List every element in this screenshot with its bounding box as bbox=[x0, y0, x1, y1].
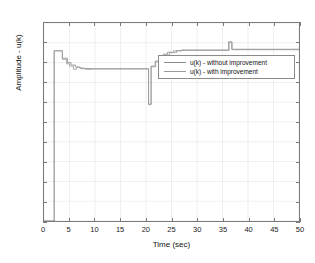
legend-label-series1: u(k) - without improvement bbox=[190, 59, 267, 66]
tick-mark bbox=[296, 162, 300, 163]
tick-mark bbox=[296, 202, 300, 203]
tick-mark bbox=[296, 142, 300, 143]
x-tick-label: 10 bbox=[90, 225, 98, 234]
tick-mark bbox=[197, 218, 198, 222]
x-axis-label: Time (sec) bbox=[43, 240, 300, 249]
x-tick-label: 5 bbox=[67, 225, 71, 234]
tick-mark bbox=[120, 22, 121, 26]
tick-mark bbox=[69, 22, 70, 26]
tick-mark bbox=[300, 218, 301, 222]
tick-mark bbox=[146, 218, 147, 222]
tick-mark bbox=[43, 102, 47, 103]
x-tick-label: 25 bbox=[167, 225, 175, 234]
tick-mark bbox=[120, 218, 121, 222]
chart-legend[interactable]: u(k) - without improvement u(k) - with i… bbox=[158, 55, 295, 79]
tick-mark bbox=[146, 22, 147, 26]
tick-mark bbox=[69, 218, 70, 222]
legend-line-swatch-series2 bbox=[164, 71, 186, 72]
tick-mark bbox=[249, 22, 250, 26]
tick-mark bbox=[296, 222, 300, 223]
tick-mark bbox=[94, 22, 95, 26]
tick-mark bbox=[43, 142, 47, 143]
tick-mark bbox=[43, 222, 47, 223]
x-tick-label: 15 bbox=[116, 225, 124, 234]
tick-mark bbox=[43, 162, 47, 163]
tick-mark bbox=[296, 102, 300, 103]
x-tick-label: 20 bbox=[142, 225, 150, 234]
tick-mark bbox=[296, 22, 300, 23]
tick-mark bbox=[296, 182, 300, 183]
x-tick-label: 35 bbox=[219, 225, 227, 234]
legend-label-series2: u(k) - with improvement bbox=[190, 68, 258, 75]
tick-mark bbox=[43, 122, 47, 123]
tick-mark bbox=[249, 218, 250, 222]
tick-mark bbox=[172, 22, 173, 26]
tick-mark bbox=[223, 22, 224, 26]
tick-mark bbox=[43, 22, 47, 23]
tick-mark bbox=[43, 202, 47, 203]
figure-canvas: 10.80.60.40.20-0.2-0.4-0.6-0.8-1 0510152… bbox=[0, 0, 315, 263]
plot-area bbox=[43, 22, 300, 222]
x-tick-label: 40 bbox=[244, 225, 252, 234]
legend-line-swatch-series1 bbox=[164, 62, 186, 63]
data-layer bbox=[44, 23, 299, 221]
x-tick-label: 50 bbox=[296, 225, 304, 234]
tick-mark bbox=[223, 218, 224, 222]
tick-mark bbox=[197, 22, 198, 26]
x-tick-label: 0 bbox=[41, 225, 45, 234]
tick-mark bbox=[274, 22, 275, 26]
tick-mark bbox=[94, 218, 95, 222]
tick-mark bbox=[296, 42, 300, 43]
legend-item-series1[interactable]: u(k) - without improvement bbox=[162, 58, 291, 67]
tick-mark bbox=[43, 62, 47, 63]
tick-mark bbox=[296, 122, 300, 123]
tick-mark bbox=[43, 182, 47, 183]
legend-item-series2[interactable]: u(k) - with improvement bbox=[162, 67, 291, 76]
tick-mark bbox=[43, 42, 47, 43]
tick-mark bbox=[296, 62, 300, 63]
tick-mark bbox=[43, 82, 47, 83]
tick-mark bbox=[172, 218, 173, 222]
x-tick-label: 45 bbox=[270, 225, 278, 234]
tick-mark bbox=[300, 22, 301, 26]
tick-mark bbox=[296, 82, 300, 83]
tick-mark bbox=[274, 218, 275, 222]
x-tick-label: 30 bbox=[193, 225, 201, 234]
y-axis-label: Amplitude - u(k) bbox=[14, 0, 23, 133]
